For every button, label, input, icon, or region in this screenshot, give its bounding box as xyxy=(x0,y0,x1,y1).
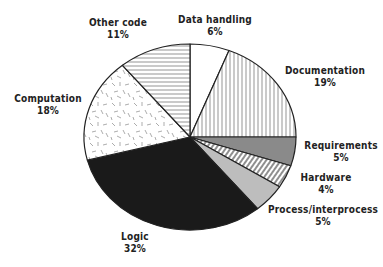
label-requirements: Requirements 5% xyxy=(302,140,380,164)
label-data-handling-pct: 6% xyxy=(172,26,258,38)
label-other-code: Other code 11% xyxy=(88,17,148,41)
label-hardware-pct: 4% xyxy=(296,184,356,196)
label-computation: Computation 18% xyxy=(8,93,88,117)
label-requirements-name: Requirements xyxy=(302,140,380,152)
label-logic-name: Logic xyxy=(110,231,160,243)
label-documentation-name: Documentation xyxy=(280,65,370,77)
label-hardware-name: Hardware xyxy=(296,172,356,184)
label-data-handling-name: Data handling xyxy=(172,14,258,26)
label-computation-name: Computation xyxy=(8,93,88,105)
label-computation-pct: 18% xyxy=(8,105,88,117)
label-other-code-name: Other code xyxy=(88,17,148,29)
label-process-interprocess: Process/interprocess 5% xyxy=(264,204,382,228)
label-other-code-pct: 11% xyxy=(88,29,148,41)
label-requirements-pct: 5% xyxy=(302,152,380,164)
label-hardware: Hardware 4% xyxy=(296,172,356,196)
label-data-handling: Data handling 6% xyxy=(172,14,258,38)
label-documentation: Documentation 19% xyxy=(280,65,370,89)
label-process-pct: 5% xyxy=(264,216,382,228)
label-logic: Logic 32% xyxy=(110,231,160,255)
pie-slices xyxy=(84,44,296,230)
label-logic-pct: 32% xyxy=(110,243,160,255)
label-documentation-pct: 19% xyxy=(280,77,370,89)
label-process-name: Process/interprocess xyxy=(264,204,382,216)
